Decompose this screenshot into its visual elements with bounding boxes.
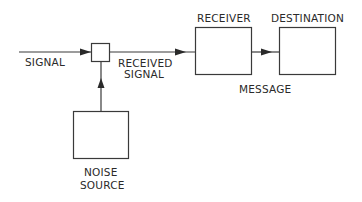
receiver-label: RECEIVER — [197, 12, 251, 24]
noise-source-box — [74, 112, 129, 159]
signal-label: SIGNAL — [25, 56, 65, 68]
message-arrow-icon — [261, 49, 272, 56]
receiver-box — [196, 28, 252, 75]
destination-box — [280, 28, 336, 75]
noise-label-2: SOURCE — [80, 179, 125, 191]
received-signal-arrow-icon — [175, 49, 186, 56]
destination-label: DESTINATION — [271, 12, 344, 24]
received-signal-label-2: SIGNAL — [124, 68, 164, 80]
noise-label-1: NOISE — [84, 166, 118, 178]
signal-arrow-icon — [80, 49, 91, 56]
communication-diagram: SIGNAL RECEIVED SIGNAL RECEIVER DESTINAT… — [0, 0, 362, 202]
mixer-box — [92, 44, 110, 62]
message-label: MESSAGE — [239, 83, 291, 95]
noise-arrow-icon — [98, 78, 105, 88]
